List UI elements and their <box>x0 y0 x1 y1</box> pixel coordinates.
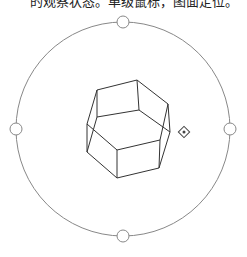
3d-orbit-canvas[interactable] <box>0 0 247 257</box>
prism-edge <box>97 80 137 90</box>
grip-left[interactable] <box>10 123 22 135</box>
grip-bottom[interactable] <box>117 230 129 242</box>
prism-edge <box>117 168 159 178</box>
prism-edge <box>97 110 139 117</box>
orbit-cursor-icon <box>178 126 189 137</box>
prism-edge <box>137 80 168 104</box>
prism-edge <box>87 152 117 178</box>
orbit-arcball[interactable] <box>10 16 236 242</box>
arcball-circle[interactable] <box>16 22 230 236</box>
prism-edge <box>117 140 160 150</box>
prism-edge <box>168 104 170 132</box>
prism-edge <box>160 104 168 140</box>
grip-top[interactable] <box>117 16 129 28</box>
grip-right[interactable] <box>224 123 236 135</box>
prism-edge <box>87 90 97 124</box>
hexagonal-prism-wireframe <box>87 80 170 178</box>
prism-edge <box>137 80 139 110</box>
prism-edge <box>139 110 170 132</box>
prism-edge <box>87 117 97 152</box>
